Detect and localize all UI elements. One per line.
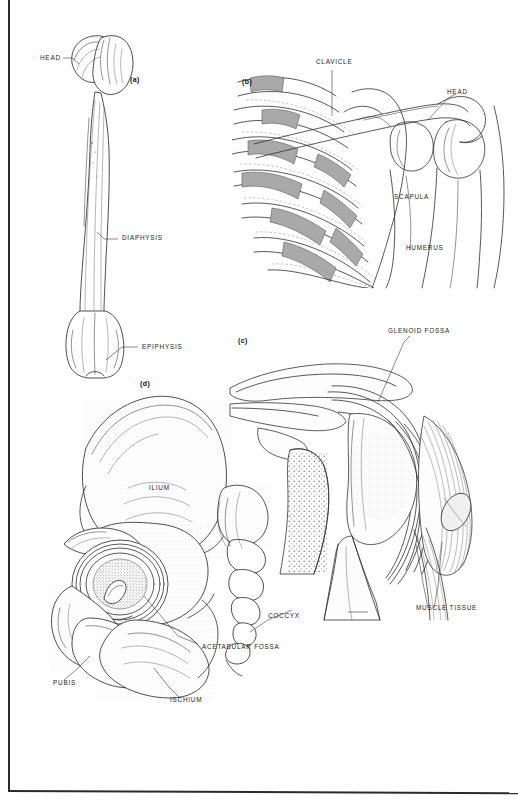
panel-a-marker: (a) bbox=[130, 76, 140, 83]
panel-d-marker: (d) bbox=[140, 380, 150, 387]
label-clavicle: CLAVICLE bbox=[316, 58, 352, 65]
label-diaphysis: DIAPHYSIS bbox=[122, 234, 163, 241]
label-ilium: ILIUM bbox=[149, 484, 170, 491]
label-head-humerus: HEAD bbox=[447, 88, 468, 95]
label-pubis: PUBIS bbox=[53, 679, 76, 686]
panel-c-marker: (c) bbox=[238, 337, 248, 344]
label-epiphysis: EPIPHYSIS bbox=[142, 343, 183, 350]
label-scapula: SCAPULA bbox=[394, 193, 429, 200]
label-ischium: ISCHIUM bbox=[170, 696, 202, 703]
femur-illustration bbox=[0, 0, 220, 400]
panel-b-marker: (b) bbox=[242, 78, 252, 85]
label-glenoid-fossa: GLENOID FOSSA bbox=[388, 327, 450, 334]
label-humerus: HUMERUS bbox=[406, 244, 444, 251]
shoulder-girdle-illustration bbox=[232, 48, 518, 288]
figure-page: (a) HEAD DIAPHYSIS EPIPHYSIS bbox=[0, 0, 518, 808]
page-border-bottom bbox=[8, 790, 518, 794]
label-head-femur: HEAD bbox=[40, 54, 61, 61]
panel-a-femur: (a) HEAD DIAPHYSIS EPIPHYSIS bbox=[0, 0, 220, 400]
label-coccyx: COCCYX bbox=[268, 612, 300, 619]
label-acetabular-fossa: ACETABULAR FOSSA bbox=[202, 643, 280, 650]
panel-b-shoulder-girdle: (b) bbox=[232, 48, 518, 288]
panel-d-hip-bone: (d) bbox=[28, 368, 318, 713]
label-muscle-tissue: MUSCLE TISSUE bbox=[416, 604, 477, 611]
hip-bone-illustration bbox=[28, 368, 318, 713]
